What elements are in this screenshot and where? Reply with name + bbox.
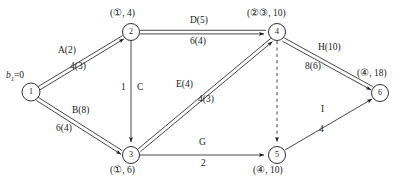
node-1-number: 1 <box>25 88 37 96</box>
edge-3-5-name: G <box>199 138 206 148</box>
node-2-annotation: (①, 4) <box>110 9 135 19</box>
edge-3-4-name: E(4) <box>176 80 193 90</box>
edge-2-4 <box>140 30 266 34</box>
edge-1-2-flow: 4(3) <box>70 62 86 72</box>
edge-1-2-name: A(2) <box>58 46 76 56</box>
node-1-supply-label: b1=0 <box>6 71 24 82</box>
edge-5-6-flow: 4 <box>319 125 324 135</box>
node-6-number: 6 <box>374 89 386 97</box>
edge-2-4-flow: 6(4) <box>190 37 206 47</box>
edge-2-3-name: C <box>137 83 143 93</box>
edge-4-6-name: H(10) <box>318 43 341 53</box>
node-4-annotation: (②③, 10) <box>247 9 286 19</box>
edge-4-6-flow: 8(6) <box>305 62 321 72</box>
node-2-number: 2 <box>125 28 137 36</box>
edge-3-4-flow: 4(3) <box>198 95 214 105</box>
node-4-number: 4 <box>271 28 283 36</box>
node-3-number: 3 <box>125 151 137 159</box>
edge-1-3-flow: 6(4) <box>56 124 72 134</box>
edge-1-3-name: B(8) <box>72 106 89 116</box>
network-diagram-canvas: 1 2 3 4 5 6 b1=0 (①, 4) (①, 6) (②③, 10) … <box>0 0 411 187</box>
node-5-number: 5 <box>271 151 283 159</box>
edge-3-5-flow: 2 <box>201 159 206 169</box>
edge-5-6 <box>285 99 372 150</box>
edge-2-3-flow: 1 <box>121 83 126 93</box>
node-5-annotation: (④, 10) <box>253 166 283 176</box>
edge-5-6-name: I <box>321 105 324 115</box>
node-6-annotation: (④, 18) <box>357 69 387 79</box>
edge-2-4-name: D(5) <box>190 16 208 26</box>
node-3-annotation: (①, 6) <box>110 166 135 176</box>
